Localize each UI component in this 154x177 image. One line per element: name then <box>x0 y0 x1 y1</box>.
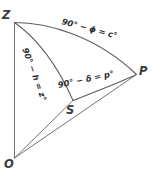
vertex-label-s: S <box>66 105 74 117</box>
vertex-label-z: Z <box>2 10 10 22</box>
vertex-label-o: O <box>4 159 14 171</box>
line-o-to-p <box>15 75 137 159</box>
line-o-to-s <box>15 101 74 159</box>
spherical-triangle-diagram: 90° − ϕ = c° 90° − h = z° 90° − δ = p° Z… <box>0 0 154 177</box>
vertex-label-p: P <box>139 66 147 78</box>
